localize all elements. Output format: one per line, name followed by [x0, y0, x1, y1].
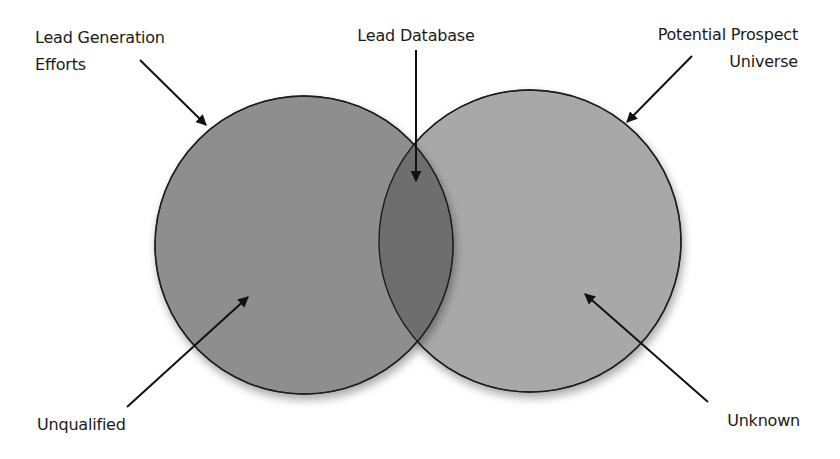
unknown-label: Unknown	[727, 407, 800, 434]
unknown-label-text: Unknown	[727, 407, 800, 434]
unqualified-label-text: Unqualified	[37, 411, 126, 438]
lead-database-label-text: Lead Database	[357, 22, 474, 49]
potential-prospect-universe-label: Potential Prospect Universe	[658, 21, 798, 75]
potential-prospect-label-line2: Universe	[658, 48, 798, 75]
lead-generation-label-line2: Efforts	[35, 51, 165, 78]
unqualified-label: Unqualified	[37, 411, 126, 438]
lead-database-label: Lead Database	[357, 22, 474, 49]
lead-generation-efforts-label: Lead Generation Efforts	[35, 24, 165, 78]
potential-prospect-label-line1: Potential Prospect	[658, 21, 798, 48]
lead-generation-label-line1: Lead Generation	[35, 24, 165, 51]
